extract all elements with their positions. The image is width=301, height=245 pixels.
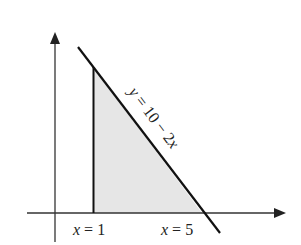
label-x-equals-5: x = 5 [160, 221, 193, 238]
x-axis-arrow-icon [274, 208, 286, 218]
diagram-canvas: y = 10 − 2x x = 1 x = 5 [0, 0, 301, 245]
label-x-equals-1: x = 1 [72, 221, 105, 238]
y-axis-arrow-icon [50, 32, 60, 44]
